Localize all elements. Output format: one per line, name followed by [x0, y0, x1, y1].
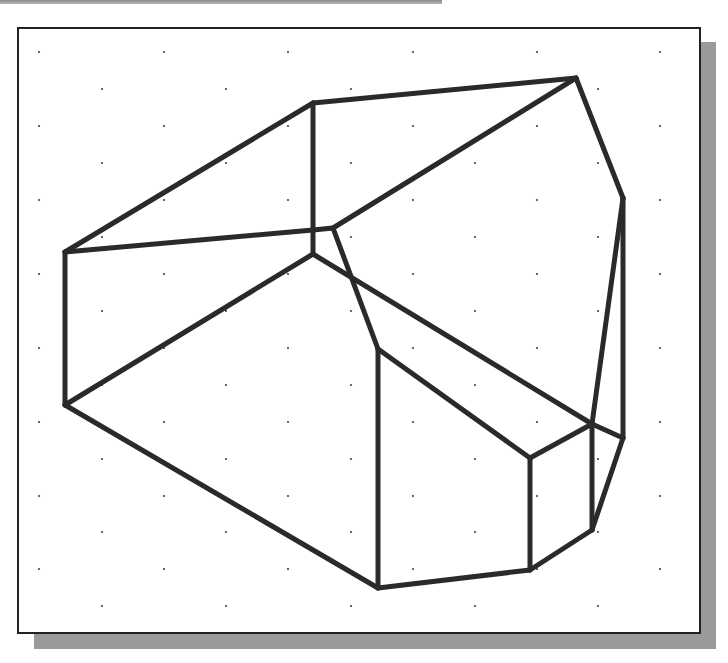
grid-dot	[597, 605, 599, 607]
edge-A-G	[65, 230, 313, 252]
grid-dot	[225, 88, 227, 90]
grid-dot	[101, 88, 103, 90]
grid-dot	[536, 51, 538, 53]
grid-dot	[163, 199, 165, 201]
grid-dot	[350, 236, 352, 238]
grid-dot	[597, 531, 599, 533]
grid-dot	[350, 531, 352, 533]
grid-dot	[536, 125, 538, 127]
grid-dot	[38, 421, 40, 423]
grid-dot	[659, 273, 661, 275]
grid-dot	[659, 421, 661, 423]
grid-dot	[659, 347, 661, 349]
grid-dot	[412, 568, 414, 570]
grid-dot	[597, 162, 599, 164]
grid-dot	[163, 421, 165, 423]
grid-dot	[287, 347, 289, 349]
edge-A-C	[65, 103, 313, 252]
grid-dot	[163, 495, 165, 497]
grid-dot	[287, 273, 289, 275]
grid-dot	[101, 162, 103, 164]
grid-dot	[163, 568, 165, 570]
grid-dot	[536, 199, 538, 201]
grid-dot	[38, 347, 40, 349]
wireframe-edges	[65, 78, 623, 588]
grid-dot	[350, 310, 352, 312]
grid-dot	[101, 531, 103, 533]
grid-dot	[38, 495, 40, 497]
edge-E-N	[592, 198, 623, 424]
grid-dot	[101, 605, 103, 607]
grid-dot	[287, 421, 289, 423]
grid-dot	[287, 125, 289, 127]
isometric-drawing	[0, 0, 728, 663]
grid-dot	[225, 458, 227, 460]
grid-dot	[659, 125, 661, 127]
grid-dot	[38, 125, 40, 127]
grid-dot	[659, 51, 661, 53]
grid-dot	[474, 162, 476, 164]
grid-dot	[287, 51, 289, 53]
grid-dot	[350, 384, 352, 386]
grid-dot	[350, 88, 352, 90]
isometric-dot-grid	[38, 51, 661, 607]
grid-dot	[38, 273, 40, 275]
grid-dot	[474, 531, 476, 533]
grid-dot	[287, 568, 289, 570]
grid-dot	[38, 199, 40, 201]
grid-dot	[163, 125, 165, 127]
grid-dot	[474, 236, 476, 238]
edge-I-N	[313, 254, 592, 424]
grid-dot	[597, 310, 599, 312]
grid-dot	[659, 199, 661, 201]
grid-dot	[536, 273, 538, 275]
grid-dot	[412, 421, 414, 423]
grid-dot	[412, 273, 414, 275]
edge-B-K	[65, 405, 378, 588]
grid-dot	[225, 605, 227, 607]
grid-dot	[659, 568, 661, 570]
grid-dot	[597, 88, 599, 90]
grid-dot	[287, 199, 289, 201]
grid-dot	[597, 458, 599, 460]
edge-J-L	[378, 349, 530, 458]
grid-dot	[38, 51, 40, 53]
edge-L-N	[530, 424, 592, 458]
edge-G-H	[313, 228, 333, 230]
grid-dot	[101, 236, 103, 238]
grid-dot	[101, 310, 103, 312]
grid-dot	[659, 495, 661, 497]
grid-dot	[412, 495, 414, 497]
grid-dot	[536, 421, 538, 423]
grid-dot	[536, 347, 538, 349]
grid-dot	[38, 568, 40, 570]
edge-D-E	[576, 78, 623, 198]
grid-dot	[163, 273, 165, 275]
grid-dot	[474, 605, 476, 607]
grid-dot	[101, 458, 103, 460]
grid-dot	[225, 384, 227, 386]
grid-dot	[412, 51, 414, 53]
grid-dot	[287, 495, 289, 497]
grid-dot	[350, 162, 352, 164]
grid-dot	[474, 458, 476, 460]
grid-dot	[350, 605, 352, 607]
grid-dot	[536, 495, 538, 497]
edge-D-H	[333, 78, 576, 228]
grid-dot	[225, 531, 227, 533]
grid-dot	[597, 236, 599, 238]
edge-F-O	[592, 438, 623, 530]
grid-dot	[350, 458, 352, 460]
grid-dot	[474, 310, 476, 312]
grid-dot	[163, 51, 165, 53]
grid-dot	[412, 199, 414, 201]
grid-dot	[225, 162, 227, 164]
edge-M-O	[530, 530, 592, 570]
edge-N-F	[592, 424, 623, 438]
grid-dot	[474, 384, 476, 386]
grid-dot	[412, 125, 414, 127]
grid-dot	[412, 347, 414, 349]
edge-C-D	[313, 78, 576, 103]
edge-K-M	[378, 570, 530, 588]
edge-B-I	[65, 254, 313, 405]
